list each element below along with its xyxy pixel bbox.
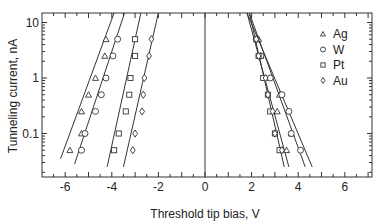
circle-marker	[92, 108, 98, 114]
diamond-marker	[140, 108, 145, 115]
circle-marker	[321, 47, 326, 52]
chart: -6-4-202460.1110 Threshold tip bias, V T…	[0, 0, 380, 224]
plot-area: -6-4-202460.1110	[22, 13, 372, 194]
y-tick-label: 1	[32, 71, 39, 85]
circle-marker	[103, 75, 109, 81]
square-marker	[127, 92, 132, 97]
circle-marker	[279, 92, 285, 98]
x-tick-label: 6	[341, 180, 348, 194]
legend: AgWPtAu	[321, 27, 348, 88]
square-marker	[112, 148, 117, 153]
x-tick-label: 0	[202, 180, 209, 194]
diamond-marker	[141, 91, 146, 98]
circle-marker	[98, 92, 104, 98]
diamond-marker	[133, 130, 138, 137]
legend-label-ag: Ag	[333, 27, 348, 41]
triangle-marker	[102, 53, 108, 58]
x-tick-label: 4	[295, 180, 302, 194]
circle-marker	[298, 147, 304, 153]
square-marker	[133, 37, 138, 42]
square-marker	[123, 109, 128, 114]
triangle-marker	[103, 36, 109, 41]
fit-line-ag	[61, 13, 114, 159]
x-tick-label: -4	[106, 180, 117, 194]
square-marker	[116, 131, 121, 136]
square-marker	[128, 75, 133, 80]
square-marker	[133, 53, 138, 58]
square-marker	[321, 63, 325, 67]
y-tick-label: 0.1	[22, 127, 39, 141]
triangle-marker	[92, 75, 98, 80]
fit-line-pt	[249, 13, 284, 167]
triangle-marker	[79, 108, 85, 113]
circle-marker	[82, 131, 88, 137]
x-axis-label: Threshold tip bias, V	[150, 207, 259, 221]
y-tick-label: 10	[26, 16, 40, 30]
circle-marker	[110, 53, 116, 59]
fit-line-w	[75, 13, 125, 164]
legend-label-au: Au	[333, 74, 348, 88]
legend-label-pt: Pt	[333, 58, 345, 72]
x-tick-label: 2	[248, 180, 255, 194]
diamond-marker	[321, 78, 325, 84]
fit-line-au	[123, 13, 158, 167]
circle-marker	[79, 147, 85, 153]
triangle-marker	[67, 147, 73, 152]
fit-line-au	[247, 13, 289, 167]
circle-marker	[286, 108, 292, 114]
x-tick-label: -2	[153, 180, 164, 194]
circle-marker	[288, 131, 294, 137]
diamond-marker	[147, 52, 152, 59]
circle-marker	[115, 36, 121, 42]
triangle-marker	[321, 32, 326, 37]
plot-frame	[42, 13, 372, 177]
diamond-marker	[130, 147, 135, 154]
fit-line-pt	[107, 13, 141, 167]
legend-label-w: W	[333, 43, 345, 57]
fit-line-ag	[249, 13, 305, 167]
triangle-marker	[86, 92, 92, 97]
y-axis-label: Tunneling current, nA	[6, 39, 20, 153]
x-tick-label: -6	[60, 180, 71, 194]
